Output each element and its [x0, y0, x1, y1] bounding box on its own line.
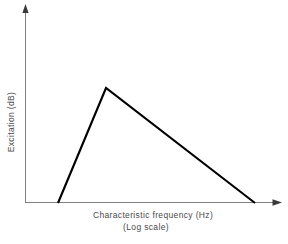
x-axis-arrowhead-icon	[273, 199, 283, 206]
excitation-pattern-figure: Excitation (dB) Characteristic frequency…	[0, 0, 288, 244]
y-axis-label-text: Excitation (dB)	[6, 92, 16, 153]
excitation-curve	[58, 88, 255, 203]
plot-canvas	[0, 0, 288, 244]
y-axis-arrowhead-icon	[22, 4, 28, 13]
x-axis-label-primary: Characteristic frequency (Hz)	[25, 211, 281, 220]
x-axis-label-secondary: (Log scale)	[25, 223, 267, 232]
